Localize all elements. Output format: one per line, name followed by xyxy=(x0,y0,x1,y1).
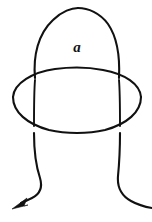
ellipse-bottom-arc xyxy=(13,97,141,133)
loop-right-side-inside-ellipse xyxy=(119,80,120,126)
loop-left-side-inside-ellipse xyxy=(34,80,35,126)
loop-label-a: a xyxy=(73,39,81,55)
knot-diagram-figure: a xyxy=(0,0,152,222)
knot-diagram-canvas: a xyxy=(0,0,152,222)
left-descending-strand xyxy=(21,133,41,203)
right-descending-strand xyxy=(118,133,152,208)
orientation-arrowhead-icon xyxy=(12,198,28,209)
ellipse-top-arc xyxy=(13,68,141,97)
